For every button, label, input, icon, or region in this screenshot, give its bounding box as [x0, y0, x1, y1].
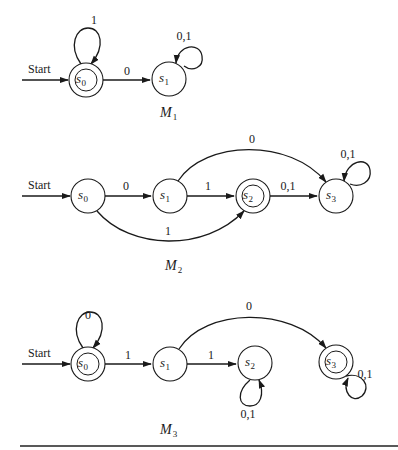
start-label: Start [28, 178, 51, 192]
transition-s1-s3 [178, 150, 326, 182]
transition-label: 0,1 [281, 179, 296, 193]
transition-label: 0 [123, 179, 129, 193]
self-loop-s0 [74, 28, 100, 64]
loop-label: 0,1 [358, 367, 373, 381]
start-label: Start [28, 62, 51, 76]
state-s2: s2 [236, 179, 270, 213]
machine-label: M1 [159, 105, 177, 122]
state-s1: s1 [153, 179, 187, 213]
transition-label: 1 [208, 348, 214, 362]
loop-label: 0 [85, 308, 91, 322]
state-s2: s2 [238, 346, 272, 380]
machine-m1: Start010,1s0s1M1 [22, 13, 202, 122]
start-label: Start [28, 346, 51, 360]
state-s0: s0 [71, 347, 105, 381]
transition-label: 1 [205, 179, 211, 193]
transition-label: 0 [246, 299, 252, 313]
machine-label: M3 [159, 422, 178, 439]
self-loop-s3 [344, 162, 370, 185]
transition-label: 0 [124, 64, 130, 78]
loop-label: 0,1 [177, 29, 192, 43]
transition-label: 1 [165, 224, 171, 238]
machine-label: M2 [164, 258, 182, 275]
state-s0: s0 [69, 63, 103, 97]
transition-s1-s3 [179, 317, 326, 349]
machine-m2: Start010,1010,1s0s1s2s3M2 [22, 132, 370, 275]
state-s1: s1 [152, 62, 186, 96]
state-s3: s3 [319, 345, 353, 379]
state-s1: s1 [153, 347, 187, 381]
state-s0: s0 [71, 179, 105, 213]
loop-label: 1 [91, 13, 97, 27]
transition-label: 0 [249, 132, 255, 146]
machines-group: Start010,1s0s1M1Start010,1010,1s0s1s2s3M… [22, 13, 373, 439]
machine-m3: Start11000,10,1s0s1s2s3M3 [22, 299, 373, 439]
transition-label: 1 [125, 348, 131, 362]
loop-label: 0,1 [241, 407, 256, 421]
loop-label: 0,1 [341, 147, 356, 161]
self-loop-s2 [240, 380, 261, 406]
finite-state-machine-diagrams: Start010,1s0s1M1Start010,1010,1s0s1s2s3M… [0, 0, 398, 450]
state-s3: s3 [319, 179, 353, 213]
